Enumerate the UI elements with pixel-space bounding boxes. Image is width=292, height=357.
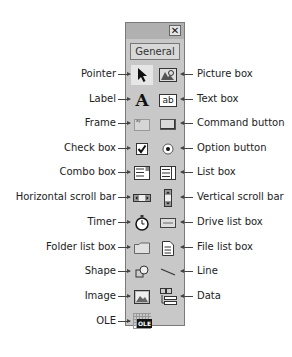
arrow-command-button <box>181 123 193 124</box>
arrow-vscrollbar <box>181 197 193 198</box>
data-icon[interactable] <box>157 287 179 307</box>
label-option-button: Option button <box>197 142 267 154</box>
hscrollbar-icon[interactable] <box>131 188 153 208</box>
pointer-icon[interactable] <box>131 65 153 85</box>
textbox-icon[interactable]: ab <box>157 90 179 110</box>
arrow-checkbox <box>118 148 130 149</box>
shape-icon[interactable] <box>131 262 153 282</box>
arrow-frame <box>118 123 130 124</box>
file-list-icon[interactable] <box>157 238 179 258</box>
arrow-line <box>181 271 193 272</box>
checkbox-icon[interactable] <box>131 139 153 159</box>
picturebox-icon[interactable] <box>157 65 179 85</box>
label-timer: Timer <box>87 216 116 228</box>
label-image: Image <box>85 290 116 302</box>
line-icon[interactable] <box>157 262 179 282</box>
frame-icon[interactable]: xy <box>131 114 153 134</box>
ole-icon[interactable]: OLE <box>131 311 153 331</box>
label-label: Label <box>89 93 116 105</box>
ole-glyph: OLE <box>137 319 152 328</box>
toolbox-panel: ✕ General A ab xy <box>125 22 185 326</box>
listbox-icon[interactable] <box>157 163 179 183</box>
arrow-pointer <box>118 74 130 75</box>
drive-list-icon[interactable] <box>157 213 179 233</box>
arrow-textbox <box>181 99 193 100</box>
label-folder-list: Folder list box <box>46 241 116 253</box>
arrow-combobox <box>118 172 130 173</box>
general-tab[interactable]: General <box>130 43 180 60</box>
arrow-ole <box>118 321 130 322</box>
arrow-label <box>118 99 130 100</box>
arrow-shape <box>118 271 130 272</box>
label-checkbox: Check box <box>64 142 116 154</box>
label-data: Data <box>197 290 221 302</box>
toolbox-titlebar[interactable]: ✕ <box>126 23 184 39</box>
label-listbox: List box <box>197 166 236 178</box>
label-vscrollbar: Vertical scroll bar <box>197 191 284 203</box>
label-shape: Shape <box>85 265 116 277</box>
label-picturebox: Picture box <box>197 68 253 80</box>
label-pointer: Pointer <box>81 68 116 80</box>
combobox-icon[interactable] <box>131 163 153 183</box>
textbox-glyph: ab <box>159 94 176 107</box>
label-frame: Frame <box>85 117 116 129</box>
arrow-timer <box>118 222 130 223</box>
arrow-listbox <box>181 172 193 173</box>
arrow-file-list <box>181 247 193 248</box>
label-command-button: Command button <box>197 117 285 129</box>
arrow-hscrollbar <box>118 197 130 198</box>
image-icon[interactable] <box>131 287 153 307</box>
label-glyph: A <box>135 90 148 110</box>
arrow-image <box>118 296 130 297</box>
label-line: Line <box>197 265 218 277</box>
svg-text:xy: xy <box>136 118 141 123</box>
label-hscrollbar: Horizontal scroll bar <box>16 191 116 203</box>
timer-icon[interactable] <box>131 213 153 233</box>
label-drive-list: Drive list box <box>197 216 263 228</box>
vscrollbar-icon[interactable] <box>157 188 179 208</box>
arrow-folder-list <box>118 247 130 248</box>
arrow-option-button <box>181 148 193 149</box>
label-textbox: Text box <box>197 93 238 105</box>
command-button-icon[interactable] <box>157 114 179 134</box>
label-ole: OLE <box>96 315 116 327</box>
label-combobox: Combo box <box>59 166 116 178</box>
label-file-list: File list box <box>197 241 253 253</box>
close-icon[interactable]: ✕ <box>169 25 181 36</box>
label-icon[interactable]: A <box>131 90 153 110</box>
arrow-drive-list <box>181 222 193 223</box>
folder-list-icon[interactable] <box>131 238 153 258</box>
option-button-icon[interactable] <box>157 139 179 159</box>
arrow-data <box>181 296 193 297</box>
arrow-picturebox <box>181 74 193 75</box>
